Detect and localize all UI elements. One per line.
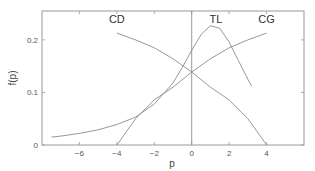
x-tick-label: −4 bbox=[112, 149, 122, 158]
x-tick-label: 4 bbox=[264, 149, 269, 158]
chart: −6−4−202400.10.2 CDTLCG p f(p) bbox=[0, 0, 315, 171]
y-tick-label: 0 bbox=[34, 141, 39, 150]
plot-curves bbox=[51, 11, 266, 145]
curve-tl bbox=[51, 26, 251, 137]
plot-frame bbox=[42, 11, 304, 145]
x-tick-label: −6 bbox=[75, 149, 85, 158]
axis-ticks: −6−4−202400.10.2 bbox=[27, 11, 304, 158]
series-label-tl: TL bbox=[210, 13, 223, 25]
x-tick-label: 2 bbox=[227, 149, 232, 158]
y-tick-label: 0.1 bbox=[27, 88, 39, 97]
y-axis-label: f(p) bbox=[7, 71, 18, 86]
series-label-cg: CG bbox=[258, 13, 275, 25]
x-axis-label: p bbox=[169, 158, 175, 169]
y-tick-label: 0.2 bbox=[27, 36, 39, 45]
x-tick-label: −2 bbox=[150, 149, 160, 158]
series-label-cd: CD bbox=[109, 13, 125, 25]
x-tick-label: 0 bbox=[189, 149, 194, 158]
